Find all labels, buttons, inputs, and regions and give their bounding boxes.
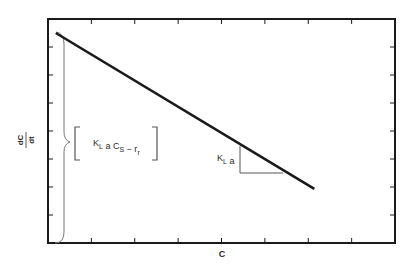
y-axis-label-denominator: dt <box>27 136 36 144</box>
tick-marks <box>48 19 395 243</box>
y-axis-label: dC dt <box>16 132 36 148</box>
slope-triangle <box>240 146 283 173</box>
right-bracket <box>152 127 157 160</box>
label-text: a C <box>103 141 120 151</box>
left-bracket <box>75 127 80 160</box>
intercept-label: KL a CS − rr <box>93 138 140 156</box>
chart: KL a CS − rr KL a C dC dt <box>0 0 413 267</box>
label-text: a <box>227 156 235 166</box>
label-text: − r <box>124 144 137 154</box>
y-intercept-brace <box>55 32 70 243</box>
plot-frame <box>48 19 395 243</box>
series-line <box>56 33 315 189</box>
label-subscript: r <box>137 149 140 156</box>
x-axis-label: C <box>219 249 226 259</box>
y-axis-label-numerator: dC <box>16 134 25 145</box>
slope-label: KL a <box>217 153 234 166</box>
